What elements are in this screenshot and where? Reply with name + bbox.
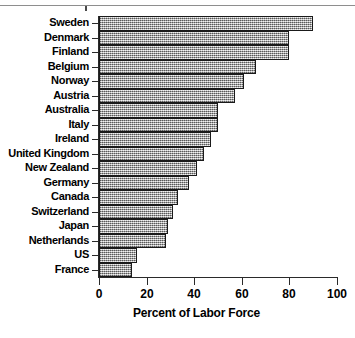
bar (99, 219, 168, 234)
bar-row (99, 190, 337, 205)
y-axis-tick (92, 38, 98, 39)
bar-row (99, 89, 337, 104)
y-axis-label: Italy (68, 119, 89, 130)
y-axis-line (98, 16, 99, 278)
y-axis-tick (92, 23, 98, 24)
x-axis-tick (194, 278, 195, 285)
bar (99, 234, 166, 249)
bar (99, 31, 289, 46)
bar-row (99, 132, 337, 147)
y-axis-label: New Zealand (25, 162, 89, 173)
y-axis-label: Denmark (44, 32, 89, 43)
bar (99, 60, 256, 75)
x-axis-tick (99, 278, 100, 285)
x-axis-tick-label: 60 (222, 288, 262, 301)
y-axis-tick (92, 125, 98, 126)
y-axis-tick (92, 255, 98, 256)
y-axis-label: Belgium (48, 61, 89, 72)
x-axis-tick-label: 80 (269, 288, 309, 301)
bar (99, 103, 218, 118)
x-axis-tick-label: 20 (127, 288, 167, 301)
y-axis-label: Norway (51, 75, 89, 86)
bar-chart: SwedenDenmarkFinlandBelgiumNorwayAustria… (0, 0, 355, 338)
bar-row (99, 147, 337, 162)
bar (99, 118, 218, 133)
bar-row (99, 263, 337, 278)
bar (99, 263, 132, 278)
x-axis-tick (242, 278, 243, 285)
y-axis-tick (92, 241, 98, 242)
y-axis-label: Germany (43, 177, 89, 188)
bar-row (99, 219, 337, 234)
bar (99, 89, 235, 104)
bar (99, 132, 211, 147)
y-axis-label: US (74, 249, 89, 260)
x-axis-title: Percent of Labor Force (0, 306, 355, 320)
bar-row (99, 74, 337, 89)
y-axis-label: Finland (52, 46, 89, 57)
x-axis-tick (337, 278, 338, 285)
y-axis-label: Canada (51, 191, 89, 202)
y-axis-tick (92, 110, 98, 111)
y-axis-label: Netherlands (29, 235, 89, 246)
y-axis-tick (92, 226, 98, 227)
bar (99, 205, 173, 220)
x-axis-line (99, 277, 338, 278)
bar-row (99, 234, 337, 249)
y-axis-tick (92, 154, 98, 155)
y-axis-label: Australia (45, 104, 89, 115)
y-axis-label: France (55, 264, 89, 275)
y-axis-tick (92, 270, 98, 271)
bar (99, 161, 197, 176)
bar (99, 16, 313, 31)
bar (99, 45, 289, 60)
bar (99, 248, 137, 263)
bar-row (99, 205, 337, 220)
bar (99, 190, 178, 205)
x-axis-tick (289, 278, 290, 285)
y-axis-tick (92, 52, 98, 53)
y-axis-label: United Kingdom (8, 148, 89, 159)
y-axis-tick (92, 183, 98, 184)
y-axis-tick (92, 212, 98, 213)
x-axis-tick-label: 40 (174, 288, 214, 301)
x-axis-tick-label: 0 (79, 288, 119, 301)
bar-row (99, 45, 337, 60)
bar-row (99, 118, 337, 133)
x-axis-tick-label: 100 (317, 288, 355, 301)
bar-row (99, 31, 337, 46)
bar-row (99, 176, 337, 191)
y-axis-label: Sweden (49, 17, 89, 28)
bar-row (99, 248, 337, 263)
bar-row (99, 60, 337, 75)
y-axis-tick (92, 139, 98, 140)
x-axis-tick (147, 278, 148, 285)
plot-area (99, 16, 337, 277)
bar-row (99, 161, 337, 176)
y-axis-tick (92, 197, 98, 198)
bar (99, 74, 244, 89)
bar-row (99, 16, 337, 31)
y-axis-label: Ireland (55, 133, 89, 144)
bar (99, 176, 189, 191)
y-axis-label: Switzerland (31, 206, 89, 217)
y-axis-tick (92, 67, 98, 68)
y-axis-tick (92, 81, 98, 82)
y-axis-label: Austria (53, 90, 89, 101)
y-axis-label: Japan (59, 220, 89, 231)
y-axis-tick (92, 96, 98, 97)
y-axis-tick (92, 168, 98, 169)
bar (99, 147, 204, 162)
bar-row (99, 103, 337, 118)
